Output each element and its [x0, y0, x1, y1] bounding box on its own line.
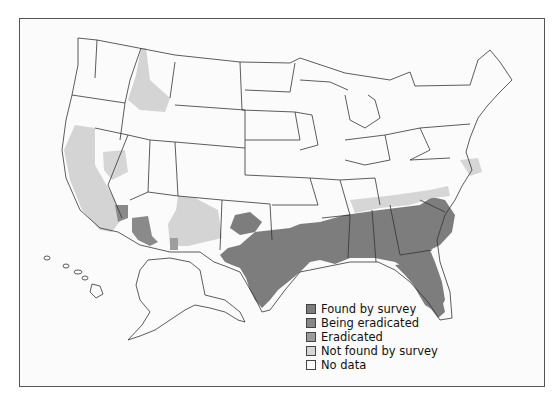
legend-label: No data [321, 358, 366, 372]
legend-item-found: Found by survey [306, 302, 438, 316]
legend-item-being-eradicated: Being eradicated [306, 316, 438, 330]
region-notfound-nevada [103, 150, 128, 180]
region-notfound-idaho [128, 48, 170, 112]
region-eradicated-nm [170, 238, 178, 250]
swatch-no-data [306, 360, 316, 370]
legend: Found by survey Being eradicated Eradica… [306, 302, 438, 372]
legend-label: Not found by survey [321, 344, 438, 358]
region-found-oklahoma [230, 212, 262, 235]
legend-item-no-data: No data [306, 358, 438, 372]
legend-label: Eradicated [321, 330, 383, 344]
us-map [0, 0, 559, 402]
region-found-southeast [220, 197, 455, 313]
legend-label: Being eradicated [321, 316, 419, 330]
swatch-not-found [306, 346, 316, 356]
swatch-found [306, 304, 316, 314]
swatch-being-eradicated [306, 318, 316, 328]
alaska [128, 258, 245, 340]
region-found-arizona [132, 216, 158, 246]
legend-label: Found by survey [321, 302, 416, 316]
legend-item-not-found: Not found by survey [306, 344, 438, 358]
legend-item-eradicated: Eradicated [306, 330, 438, 344]
hawaii [44, 256, 103, 298]
swatch-eradicated [306, 332, 316, 342]
